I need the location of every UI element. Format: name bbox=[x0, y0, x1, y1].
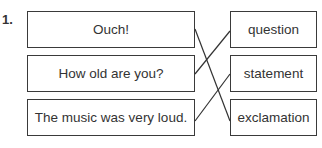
match-line-music-statement bbox=[195, 74, 230, 121]
match-line-ouch-exclamation bbox=[195, 29, 230, 121]
match-line-how-old-question bbox=[195, 31, 230, 74]
match-lines bbox=[0, 0, 322, 148]
